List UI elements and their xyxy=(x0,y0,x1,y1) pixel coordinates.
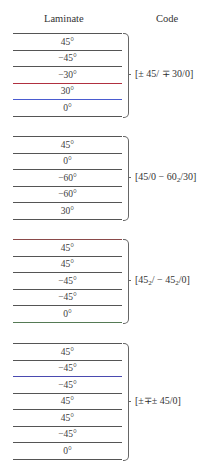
ply-divider-line xyxy=(13,459,122,460)
curly-brace xyxy=(123,343,129,461)
ply-angle-label: 45° xyxy=(13,393,122,409)
ply-angle-label: −45° xyxy=(13,50,122,66)
ply-angle-label: 45° xyxy=(13,34,122,50)
laminate-code: [45/0 − 602/30] xyxy=(135,171,196,186)
laminate-column-header: Laminate xyxy=(44,13,84,24)
ply-angle-label: −30° xyxy=(13,67,122,83)
brace-tip xyxy=(128,280,131,281)
laminate-code: [±∓± 45/0] xyxy=(135,395,181,407)
ply-angle-label: −45° xyxy=(13,360,122,376)
brace-tip xyxy=(128,401,131,402)
ply-angle-label: 45° xyxy=(13,256,122,272)
curly-brace xyxy=(123,136,129,221)
curly-brace xyxy=(123,33,129,118)
ply-angle-label: 0° xyxy=(13,100,122,116)
ply-divider-line xyxy=(13,219,122,220)
ply-angle-label: −45° xyxy=(13,377,122,393)
ply-angle-label: 0° xyxy=(13,306,122,322)
ply-angle-label: 45° xyxy=(13,410,122,426)
brace-tip xyxy=(128,177,131,178)
ply-angle-label: −45° xyxy=(13,273,122,289)
ply-angle-label: 30° xyxy=(13,83,122,99)
code-column-header: Code xyxy=(156,13,178,24)
laminate-code: [± 45/ ∓ 30/0] xyxy=(135,68,193,80)
ply-angle-label: 45° xyxy=(13,240,122,256)
ply-angle-label: −60° xyxy=(13,186,122,202)
ply-angle-label: −60° xyxy=(13,170,122,186)
brace-tip xyxy=(128,74,131,75)
ply-divider-line xyxy=(13,322,122,323)
ply-angle-label: −45° xyxy=(13,289,122,305)
ply-angle-label: −45° xyxy=(13,426,122,442)
ply-divider-line xyxy=(13,116,122,117)
ply-angle-label: 30° xyxy=(13,203,122,219)
ply-angle-label: 45° xyxy=(13,344,122,360)
ply-angle-label: 45° xyxy=(13,137,122,153)
laminate-code: [452/ − 452/0] xyxy=(135,274,190,289)
ply-angle-label: 0° xyxy=(13,443,122,459)
ply-angle-label: 0° xyxy=(13,153,122,169)
curly-brace xyxy=(123,239,129,324)
